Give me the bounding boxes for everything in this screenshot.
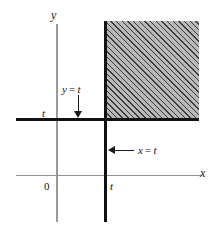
arrow-left-stem-icon [115, 150, 134, 151]
y-axis-label: y [51, 9, 56, 21]
arrow-down-head-icon [74, 111, 82, 118]
callout-x-operator: = [143, 144, 154, 156]
arrow-left-head-icon [108, 146, 115, 154]
origin-label: 0 [44, 181, 50, 192]
y-axis-line [56, 24, 58, 222]
callout-y-operator: = [67, 83, 78, 95]
callout-label-x-equals-t: x = t [138, 145, 157, 156]
callout-x-rhs: t [154, 144, 157, 156]
y-tick-label-t: t [42, 108, 45, 119]
vertical-boundary-line-x-equals-t [104, 21, 107, 222]
coordinate-plane-figure: y x 0 t t y = t x = t [0, 0, 217, 230]
callout-label-y-equals-t: y = t [62, 84, 81, 95]
shaded-region [106, 21, 199, 119]
x-tick-label-t: t [110, 181, 113, 192]
x-axis-label: x [200, 167, 205, 179]
callout-y-rhs: t [78, 83, 81, 95]
x-axis-line [16, 175, 202, 176]
